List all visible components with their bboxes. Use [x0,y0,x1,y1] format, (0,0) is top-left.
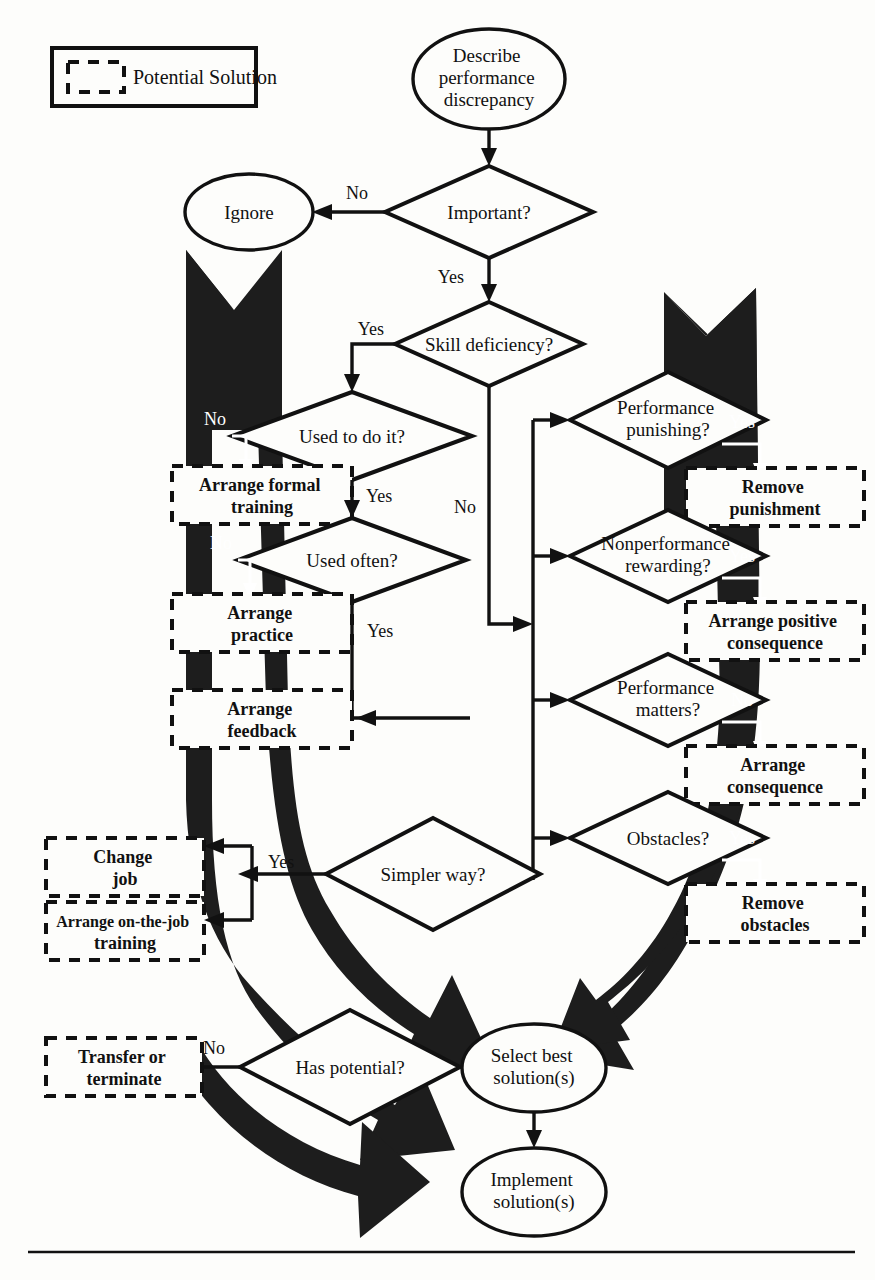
arrowhead-skill-no-bus [513,616,533,632]
arrowhead-simpler-mid [238,866,258,882]
rewarding-line2: rewarding? [625,555,710,576]
solution-transfer-or-terminate[interactable]: Transfer or terminate [46,1038,202,1096]
legend-label: Potential Solution [133,66,277,88]
arrowhead-start-to-important [481,148,497,166]
solution-change-job[interactable]: Change job [46,838,204,896]
used-often-label: Used often? [306,550,397,571]
edge-label-has-potential-no: No [203,1038,225,1058]
flowchart-canvas: Potential Solution Describe performance … [0,0,875,1280]
implement-line2: solution(s) [493,1191,574,1213]
select-best-line2: solution(s) [493,1067,574,1089]
sol-transfer-line2: terminate [87,1069,162,1089]
left-band-tail-notch [186,250,282,430]
node-implement-solution[interactable]: Implement solution(s) [462,1148,606,1236]
edge-label-important-yes: Yes [438,267,464,287]
used-to-do-it-label: Used to do it? [299,426,405,447]
sol-remove-obstacles-line1: Remove [742,893,804,913]
node-select-best-solution[interactable]: Select best solution(s) [462,1024,606,1112]
sol-formal-training-line2: training [231,497,293,517]
sol-change-job-line1: Change [93,847,152,867]
rewarding-line1: Nonperformance [601,533,730,554]
svg-text:Select best solution(s): Select best solution(s) [491,1045,578,1089]
solution-arrange-consequence[interactable]: Arrange consequence [686,746,864,804]
sol-transfer-line1: Transfer or [78,1047,166,1067]
arrowhead-arrange-feedback [356,710,376,726]
sol-onjob-line2: training [94,933,156,953]
sol-onjob-line1: Arrange on-the-job [56,913,189,931]
edge-label-skill-yes: Yes [358,319,384,339]
sol-positive-line2: consequence [727,633,823,653]
edge-obstacles-yes [722,860,760,882]
has-potential-label: Has potential? [295,1057,404,1078]
sol-change-job-line2: job [111,869,137,889]
punishing-line1: Performance [617,397,714,418]
node-describe-performance-discrepancy[interactable]: Describe performance discrepancy [413,29,565,129]
start-line3: discrepancy [444,89,535,110]
sol-remove-punishment-line2: punishment [729,499,820,519]
edge-label-skill-no: No [454,497,476,517]
edge-label-punishing-yes: Yes [729,412,755,432]
select-best-line1: Select best [491,1045,574,1066]
skill-deficiency-label: Skill deficiency? [425,334,553,355]
start-line1: Describe [453,45,521,66]
edge-label-important-no: No [346,183,368,203]
solution-arrange-practice[interactable]: Arrange practice [172,594,352,652]
arrowhead-important-no [312,204,332,220]
sol-positive-line1: Arrange positive [709,611,837,631]
sol-practice-line1: Arrange [227,603,292,623]
sol-practice-line2: practice [231,625,293,645]
edge-label-used-often-yes: Yes [367,621,393,641]
sol-remove-punishment-line1: Remove [742,477,804,497]
sol-formal-training-line1: Arrange formal [199,475,320,495]
edge-label-simpler-way-yes: Yes [268,852,294,872]
edge-label-rewarding-yes: Yes [729,546,755,566]
punishing-line2: punishing? [626,419,709,440]
solution-arrange-formal-training[interactable]: Arrange formal training [172,466,352,524]
edge-skill-no [489,386,519,624]
solution-arrange-on-the-job-training[interactable]: Arrange on-the-job training [46,902,204,960]
sol-feedback-line2: feedback [228,721,297,741]
sol-consequence-line1: Arrange [740,755,805,775]
edge-used-often-yes [352,602,370,718]
obstacles-label: Obstacles? [627,828,709,849]
edge-label-used-to-do-it-no: No [204,409,226,429]
edge-label-obstacles-yes: Yes [729,828,755,848]
node-ignore[interactable]: Ignore [185,174,313,250]
sol-remove-obstacles-line2: obstacles [741,915,810,935]
edge-label-used-to-do-it-yes: Yes [366,486,392,506]
node-simpler-way[interactable]: Simpler way? [326,818,540,930]
flowchart-figure: Potential Solution Describe performance … [0,0,875,1280]
implement-line1: Implement [490,1169,573,1190]
svg-text:Describe performance: Describe performance discrepancy [439,45,540,110]
edge-skill-yes [352,344,395,378]
matters-line2: matters? [636,699,700,720]
solution-arrange-positive-consequence[interactable]: Arrange positive consequence [686,602,864,660]
sol-consequence-line2: consequence [727,777,823,797]
edge-label-matters-no: No [731,690,753,710]
svg-text:Performance punishing?: Performance punishing? [617,397,719,440]
node-skill-deficiency[interactable]: Skill deficiency? [395,302,583,386]
matters-line1: Performance [617,677,714,698]
arrowhead-skill-yes [344,374,360,392]
ignore-label: Ignore [224,202,274,223]
solution-remove-punishment[interactable]: Remove punishment [686,468,864,526]
simpler-way-label: Simpler way? [380,864,485,885]
solution-remove-obstacles[interactable]: Remove obstacles [686,884,864,942]
arrowhead-select-to-implement [526,1130,542,1148]
important-label: Important? [447,202,530,223]
edge-simpler-way-bracket [218,846,252,920]
edge-label-used-often-no: No [210,533,232,553]
arrowhead-important-yes [481,284,497,302]
legend-swatch-icon [68,62,124,92]
svg-text:Implement solution(s): Implement solution(s) [490,1169,577,1213]
sol-feedback-line1: Arrange [227,699,292,719]
solution-arrange-feedback[interactable]: Arrange feedback [172,690,352,748]
start-line2: performance [439,67,535,88]
node-important[interactable]: Important? [385,166,593,258]
legend: Potential Solution [52,48,277,106]
